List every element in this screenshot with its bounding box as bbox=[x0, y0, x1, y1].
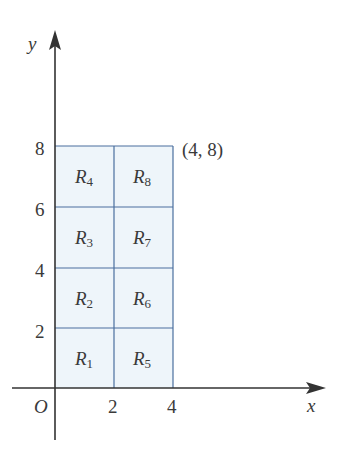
origin-label: O bbox=[34, 396, 48, 417]
y-tick-6: 6 bbox=[35, 199, 45, 220]
x-axis-label: x bbox=[306, 395, 316, 416]
y-tick-2: 2 bbox=[35, 321, 45, 342]
y-tick-4: 4 bbox=[35, 260, 45, 281]
y-axis-label: y bbox=[26, 33, 37, 54]
y-tick-8: 8 bbox=[35, 138, 45, 159]
x-tick-2: 2 bbox=[108, 396, 118, 417]
x-tick-4: 4 bbox=[167, 396, 177, 417]
diagram-canvas: y x O 2 4 2 4 6 8 (4, 8) R1 R2 R3 R4 R5 … bbox=[0, 0, 346, 465]
corner-point-label: (4, 8) bbox=[182, 139, 223, 161]
